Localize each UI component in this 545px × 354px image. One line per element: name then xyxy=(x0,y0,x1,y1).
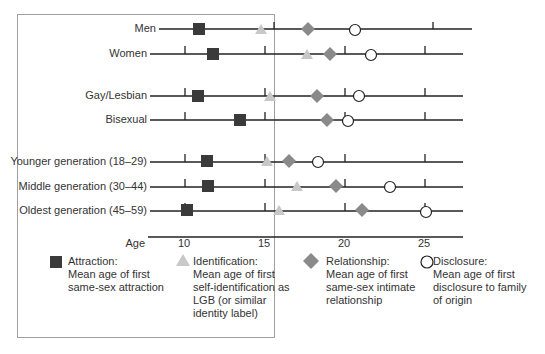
relationship-marker xyxy=(301,22,315,36)
relationship-marker xyxy=(320,113,334,127)
legend-disclosure-title: Disclosure: xyxy=(433,255,527,268)
relationship-marker xyxy=(310,89,324,103)
legend-relationship-line: Mean age of first xyxy=(326,268,415,281)
attraction-marker xyxy=(201,155,213,167)
row-younger-generation xyxy=(150,154,463,168)
attraction-marker xyxy=(181,204,193,216)
tick-label-10: 10 xyxy=(178,237,190,249)
identification-marker xyxy=(261,156,273,166)
disclosure-marker xyxy=(421,207,432,218)
legend-relationship-line: same-sex intimate xyxy=(326,281,415,294)
legend-disclosure-line: of origin xyxy=(433,294,527,307)
row-label-oldest-generation: Oldest generation (45–59) xyxy=(19,204,147,216)
disclosure-marker xyxy=(313,157,324,168)
tick-label-15: 15 xyxy=(258,237,270,249)
attraction-marker xyxy=(234,114,246,126)
legend-attraction-line: same-sex attraction xyxy=(68,281,164,294)
row-gay-lesbian xyxy=(150,88,463,103)
legend-relationship-title: Relationship: xyxy=(326,255,415,268)
row-labels: Men Women Gay/Lesbian Bisexual Younger g… xyxy=(0,0,152,354)
legend-relationship-icon xyxy=(303,253,319,269)
row-men xyxy=(159,22,472,36)
legend-identification-line: identity label) xyxy=(193,307,290,320)
attraction-marker xyxy=(192,90,204,102)
row-bisexual xyxy=(150,112,463,127)
disclosure-marker xyxy=(385,182,396,193)
row-label-gay-lesbian: Gay/Lesbian xyxy=(85,89,147,101)
row-middle-generation xyxy=(150,179,463,193)
relationship-marker xyxy=(355,203,369,217)
attraction-marker xyxy=(193,23,205,35)
legend-attraction-title: Attraction: xyxy=(68,255,164,268)
identification-marker xyxy=(291,181,303,191)
legend-attraction-line: Mean age of first xyxy=(68,268,164,281)
row-label-men: Men xyxy=(135,22,156,34)
disclosure-marker xyxy=(350,25,361,36)
legend-identification-line: self-identification as xyxy=(193,281,290,294)
disclosure-marker xyxy=(343,116,354,127)
disclosure-marker xyxy=(354,91,365,102)
legend-identification-title: Identification: xyxy=(193,255,290,268)
legend-identification-icon xyxy=(176,254,190,266)
row-label-women: Women xyxy=(109,47,147,59)
relationship-marker xyxy=(323,47,337,61)
legend-disclosure-icon xyxy=(421,256,433,268)
row-label-younger-generation: Younger generation (18–29) xyxy=(10,155,147,167)
attraction-marker xyxy=(202,180,214,192)
legend-relationship-line: relationship xyxy=(326,294,415,307)
relationship-marker xyxy=(282,154,296,168)
identification-marker xyxy=(273,205,285,215)
row-label-middle-generation: Middle generation (30–44) xyxy=(19,180,147,192)
axis-label-age: Age xyxy=(125,237,145,249)
legend-identification-line: Mean age of first xyxy=(193,268,290,281)
legend-disclosure-line: disclosure to family xyxy=(433,281,527,294)
disclosure-marker xyxy=(366,50,377,61)
legend-disclosure-line: Mean age of first xyxy=(433,268,527,281)
row-oldest-generation xyxy=(150,203,463,218)
attraction-marker xyxy=(207,48,219,60)
relationship-marker xyxy=(329,179,343,193)
row-women xyxy=(150,46,463,61)
tick-label-20: 20 xyxy=(338,237,350,249)
row-label-bisexual: Bisexual xyxy=(105,113,147,125)
tick-label-25: 25 xyxy=(418,237,430,249)
legend-identification-line: LGB (or similar xyxy=(193,294,290,307)
